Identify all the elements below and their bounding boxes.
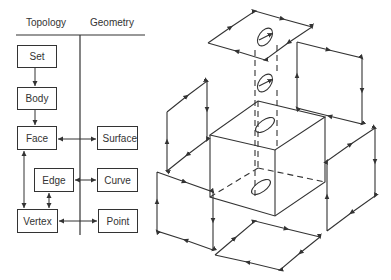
front-right-face	[327, 128, 375, 231]
hole-loop	[254, 71, 275, 94]
topology-geometry-diagram: Topology Geometry Set Body Face Edge	[0, 0, 391, 280]
top-face	[208, 11, 312, 60]
exploded-cube-illustration	[0, 0, 391, 280]
cube	[210, 101, 325, 216]
back-left-face	[167, 81, 207, 171]
bottom-face	[215, 221, 320, 270]
front-left-face	[157, 172, 213, 250]
back-right-face	[297, 42, 362, 124]
